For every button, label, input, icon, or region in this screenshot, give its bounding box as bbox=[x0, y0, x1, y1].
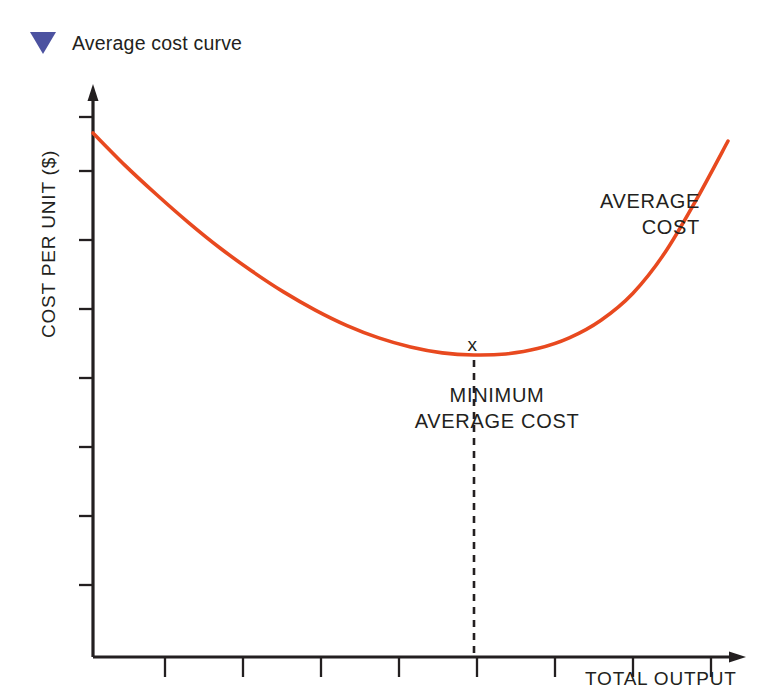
average-cost-annotation-line1: AVERAGE bbox=[530, 188, 700, 214]
average-cost-curve bbox=[93, 133, 728, 355]
x-axis-label: TOTAL OUTPUT bbox=[585, 668, 737, 690]
minimum-annotation-line2: AVERAGE COST bbox=[377, 408, 617, 434]
y-axis bbox=[79, 84, 99, 657]
minimum-annotation-line1: MINIMUM bbox=[377, 382, 617, 408]
chart-figure: Average cost curve bbox=[0, 0, 770, 700]
x-axis-arrowhead bbox=[729, 652, 746, 663]
minimum-point-marker: x bbox=[468, 335, 478, 354]
chart-plot-area bbox=[0, 0, 770, 700]
y-axis-label: COST PER UNIT ($) bbox=[38, 38, 60, 338]
average-cost-annotation: AVERAGE COST bbox=[530, 188, 700, 241]
y-axis-arrowhead bbox=[88, 84, 99, 101]
minimum-average-cost-annotation: MINIMUM AVERAGE COST bbox=[377, 382, 617, 435]
average-cost-annotation-line2: COST bbox=[530, 214, 700, 240]
